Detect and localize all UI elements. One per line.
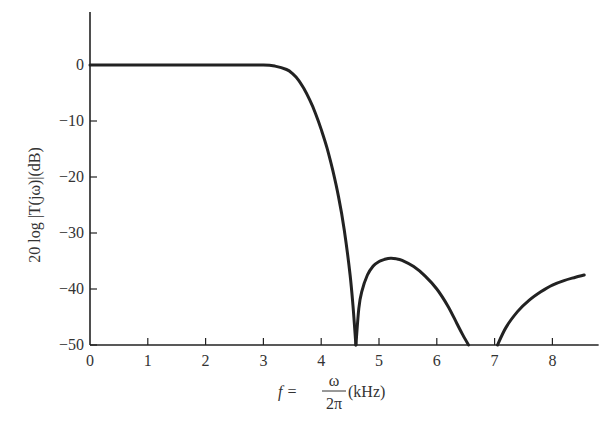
y-tick-label: −30 bbox=[59, 224, 84, 241]
y-tick-label: −40 bbox=[59, 280, 84, 297]
y-axis-label: 20 log |T(jω)|(dB) bbox=[26, 147, 44, 263]
x-axis-label-denominator: 2π bbox=[326, 395, 342, 412]
x-axis-label: f = ω 2π (kHz) bbox=[278, 372, 385, 412]
x-tick-label: 5 bbox=[375, 352, 383, 369]
x-tick-label: 3 bbox=[259, 352, 267, 369]
x-tick-label: 2 bbox=[202, 352, 210, 369]
frequency-response-chart: 0−10−20−30−40−50 012345678 20 log |T(jω)… bbox=[0, 0, 614, 434]
x-tick-label: 8 bbox=[548, 352, 556, 369]
y-tick-label: 0 bbox=[76, 56, 84, 73]
curve-segment bbox=[356, 258, 469, 345]
x-tick-label: 1 bbox=[144, 352, 152, 369]
x-tick-label: 0 bbox=[86, 352, 94, 369]
x-axis-label-numerator: ω bbox=[329, 372, 340, 389]
x-axis-ticks: 012345678 bbox=[86, 338, 556, 369]
y-tick-label: −50 bbox=[59, 336, 84, 353]
y-tick-label: −20 bbox=[59, 168, 84, 185]
x-axis-label-unit: (kHz) bbox=[348, 383, 385, 401]
x-tick-label: 7 bbox=[491, 352, 499, 369]
y-axis-ticks: 0−10−20−30−40−50 bbox=[59, 56, 97, 353]
magnitude-curve bbox=[90, 65, 584, 345]
y-axis-label-text: 20 log |T(jω)|(dB) bbox=[26, 147, 44, 263]
x-tick-label: 6 bbox=[433, 352, 441, 369]
x-axis-label-lhs: f = bbox=[278, 383, 297, 401]
curve-segment bbox=[90, 65, 356, 345]
y-tick-label: −10 bbox=[59, 112, 84, 129]
curve-segment bbox=[498, 275, 585, 345]
x-tick-label: 4 bbox=[317, 352, 325, 369]
axes bbox=[90, 12, 599, 345]
